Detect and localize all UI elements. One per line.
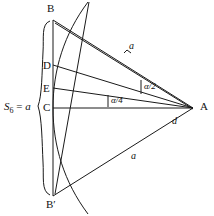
segment-ab — [53, 20, 193, 108]
measure-label-d: d — [172, 116, 177, 126]
angle-label-alpha-half: α/2 — [144, 82, 156, 91]
vertex-label-d: D — [43, 60, 51, 71]
segment-label-value: a — [25, 100, 31, 112]
vertex-label-a: A — [200, 101, 208, 112]
segment-ab-inner — [55, 23, 193, 109]
segment-label-s6: S6 = a — [4, 101, 31, 115]
segment-label-equals: = — [14, 100, 26, 112]
figure-canvas — [0, 0, 214, 216]
vertex-label-b: B — [47, 3, 54, 14]
vertex-label-b-prime: B′ — [46, 199, 56, 210]
segment-ae — [53, 88, 193, 108]
vertex-label-e: E — [43, 83, 50, 94]
geometry-figure: B D E C B′ A a a d α/2 α/4 S6 = a — [0, 0, 214, 216]
measure-label-a-upper: a — [129, 41, 134, 51]
measure-label-a-lower: a — [131, 151, 136, 161]
angle-label-alpha-quarter: α/4 — [111, 96, 123, 105]
vertex-label-c: C — [43, 102, 50, 113]
secant-line — [55, 2, 89, 194]
